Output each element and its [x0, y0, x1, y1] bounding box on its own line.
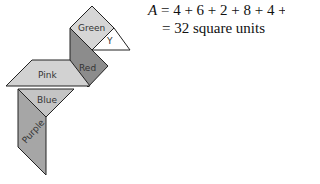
area-variable: A [148, 2, 157, 18]
equation-line-2: = 32 square units [162, 20, 265, 37]
label-blue: Blue [37, 95, 57, 105]
equation-line-1: A = 4 + 6 + 2 + 8 + 4 + 8 [148, 2, 285, 19]
label-red: Red [79, 63, 96, 73]
equation-sum: = 4 + 6 + 2 + 8 + 4 + 8 [161, 2, 285, 18]
label-green: Green [78, 23, 105, 33]
label-pink: Pink [38, 70, 57, 80]
equation-result: = 32 square units [162, 20, 265, 36]
label-y: Y [106, 36, 113, 46]
